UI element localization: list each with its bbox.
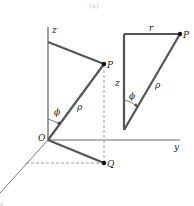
- point-q-label: Q: [107, 159, 115, 169]
- triangle-point-p: [178, 32, 182, 36]
- phi-label: ϕ: [54, 107, 60, 117]
- triangle-phi-label: ϕ: [129, 91, 135, 101]
- x-axis-label: x: [0, 200, 4, 206]
- triangle-p-label: P: [182, 30, 190, 40]
- point-p: [102, 62, 106, 66]
- point-p-label: P: [106, 60, 114, 70]
- segment-o-to-q: [48, 140, 104, 163]
- segment-z-to-p: [48, 42, 104, 64]
- y-axis-label: y: [173, 142, 180, 152]
- triangle-rho-label: ρ: [154, 80, 161, 90]
- triangle-r-label: r: [149, 23, 154, 33]
- right-triangle: [124, 32, 182, 130]
- triangle-side-rho: [124, 34, 180, 130]
- coordinate-axes: [0, 27, 180, 193]
- rho-label: ρ: [76, 102, 83, 112]
- z-axis-label: z: [51, 25, 57, 35]
- figure-caption: (a): [89, 2, 99, 10]
- spherical-coordinates-diagram: (a) z y x P Q O ρ ϕ r P z ρ ϕ: [0, 0, 194, 206]
- point-q: [102, 161, 106, 165]
- origin-label: O: [38, 133, 46, 143]
- x-axis: [0, 140, 48, 193]
- triangle-z-label: z: [114, 78, 120, 88]
- segment-rho-o-to-p: [48, 64, 104, 140]
